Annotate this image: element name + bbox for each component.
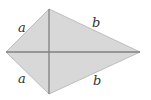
kite-diagram: a a b b xyxy=(0,0,151,100)
label-bottom-left: a xyxy=(18,71,26,86)
label-top-left: a xyxy=(18,20,26,35)
label-bottom-right: b xyxy=(93,73,101,88)
label-top-right: b xyxy=(92,15,100,30)
